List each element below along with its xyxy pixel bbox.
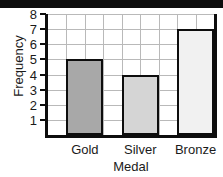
bar-bronze [177, 29, 214, 135]
y-tick-label: 1 [22, 113, 37, 126]
x-axis-title: Medal [45, 158, 217, 176]
x-tick-label-bronze: Bronze [175, 141, 216, 159]
bar-silver [122, 75, 159, 135]
horizontal-gridline [48, 14, 214, 15]
x-tick-label-silver: Silver [124, 141, 157, 159]
y-tick-label: 6 [22, 38, 37, 51]
vertical-gridline [159, 14, 160, 135]
y-tick-label: 8 [22, 8, 37, 21]
vertical-gridline [103, 14, 104, 135]
bar-gold [66, 59, 103, 135]
x-tick-label-gold: Gold [71, 141, 98, 159]
y-tick-label: 3 [22, 83, 37, 96]
plot-area [45, 14, 217, 138]
x-axis-tick-labels: GoldSilverBronze [45, 141, 217, 159]
y-axis-tick-labels: 12345678 [22, 0, 37, 177]
y-tick-label: 4 [22, 68, 37, 81]
bar-chart-figure: Frequency 12345678 GoldSilverBronze Meda… [0, 0, 223, 177]
y-tick-label: 7 [22, 23, 37, 36]
y-tick-label: 2 [22, 98, 37, 111]
y-tick-label: 5 [22, 53, 37, 66]
plot-inner [48, 14, 214, 135]
